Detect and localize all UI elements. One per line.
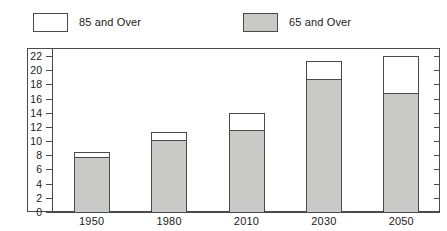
bar-segment-85-and-over (151, 132, 187, 140)
y-tick-mark (46, 113, 52, 114)
y-tick-label: 2 (18, 193, 42, 204)
plot-area (53, 48, 440, 212)
bar-segment-85-and-over (383, 56, 419, 93)
y-tick-label: 22 (18, 51, 42, 62)
y-tick-mark (46, 169, 52, 170)
bar-segment-65-and-over (151, 140, 187, 212)
y-tick-mark (46, 99, 52, 100)
chart-figure: 85 and Over 65 and Over 0246810121416182… (0, 0, 447, 231)
legend-label-65-and-over: 65 and Over (289, 17, 351, 28)
x-tick-label-2050: 2050 (371, 216, 431, 227)
legend-item-65-and-over: 65 and Over (243, 13, 351, 32)
y-tick-label: 4 (18, 179, 42, 190)
y-tick-label: 12 (18, 122, 42, 133)
bar-2050 (383, 56, 419, 212)
bar-2010 (229, 113, 265, 212)
y-tick-label: 0 (18, 207, 42, 218)
y-tick-mark (46, 84, 52, 85)
bar-segment-65-and-over (383, 93, 419, 212)
bar-segment-65-and-over (306, 79, 342, 212)
bar-segment-85-and-over (229, 113, 265, 130)
y-tick-mark (46, 141, 52, 142)
bar-segment-65-and-over (229, 130, 265, 212)
x-tick-label-2030: 2030 (294, 216, 354, 227)
y-tick-mark-right (434, 212, 440, 213)
y-tick-mark (46, 56, 52, 57)
legend-swatch-white (33, 13, 68, 32)
x-tick-label-1980: 1980 (139, 216, 199, 227)
y-tick-mark (46, 155, 52, 156)
y-tick-label: 10 (18, 136, 42, 147)
y-tick-mark (46, 127, 52, 128)
y-tick-label: 16 (18, 94, 42, 105)
y-tick-mark (46, 184, 52, 185)
y-tick-mark (46, 198, 52, 199)
y-tick-label: 14 (18, 108, 42, 119)
y-tick-label: 20 (18, 65, 42, 76)
x-tick-label-2010: 2010 (217, 216, 277, 227)
bar-segment-65-and-over (74, 157, 110, 212)
bar-1980 (151, 132, 187, 212)
y-tick-mark (46, 70, 52, 71)
x-axis-line (52, 212, 440, 213)
bar-segment-85-and-over (306, 61, 342, 79)
y-tick-mark (46, 212, 52, 213)
legend-label-85-and-over: 85 and Over (79, 17, 141, 28)
x-tick-label-1950: 1950 (62, 216, 122, 227)
legend-item-85-and-over: 85 and Over (33, 13, 141, 32)
bar-2030 (306, 61, 342, 212)
chart-legend: 85 and Over 65 and Over (0, 0, 447, 46)
y-tick-label: 18 (18, 79, 42, 90)
y-tick-label: 6 (18, 164, 42, 175)
legend-swatch-gray (243, 13, 278, 32)
y-tick-label: 8 (18, 150, 42, 161)
bar-1950 (74, 152, 110, 212)
